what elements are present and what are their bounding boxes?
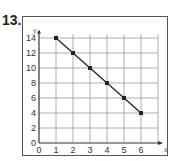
x-tick-label: 3 xyxy=(87,145,92,155)
y-axis-label: y xyxy=(32,26,37,35)
y-tick-label: 8 xyxy=(31,78,36,88)
data-point xyxy=(71,51,75,55)
x-tick-label: 2 xyxy=(70,145,75,155)
data-point xyxy=(122,96,126,100)
x-axis-label: x xyxy=(163,145,168,154)
y-tick-label: 4 xyxy=(31,108,36,118)
y-tick-label: 0 xyxy=(31,138,36,148)
data-point xyxy=(105,81,109,85)
x-axis-arrow-icon xyxy=(158,141,163,145)
x-tick-label: 4 xyxy=(104,145,109,155)
y-tick-label: 10 xyxy=(26,63,36,73)
x-tick-label: 6 xyxy=(138,145,143,155)
data-point xyxy=(88,66,92,70)
y-tick-label: 12 xyxy=(26,48,36,58)
data-point xyxy=(54,36,58,40)
y-axis-arrow-icon xyxy=(37,30,41,34)
y-tick-label: 2 xyxy=(31,123,36,133)
x-tick-label: 1 xyxy=(53,145,58,155)
line-chart: 012345602468101214xy xyxy=(0,0,177,161)
data-line xyxy=(56,38,141,113)
data-point xyxy=(139,111,143,115)
x-tick-label: 5 xyxy=(121,145,126,155)
x-tick-label: 0 xyxy=(36,145,41,155)
y-tick-label: 6 xyxy=(31,93,36,103)
